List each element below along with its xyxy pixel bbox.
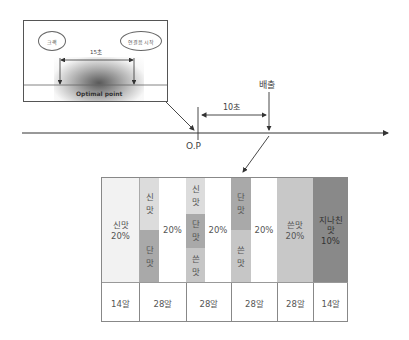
strip-sour: 신 맛 bbox=[139, 178, 159, 230]
timeline-interval-label: 10초 bbox=[223, 101, 240, 112]
count-cell: 28알 bbox=[139, 283, 186, 322]
count-cell: 14알 bbox=[313, 283, 348, 322]
strip-bitter: 쓴 맛 bbox=[186, 248, 205, 283]
col3-percent: 20% bbox=[205, 178, 231, 283]
col-excess-main: 지나친 맛 10% bbox=[313, 178, 348, 283]
count-cell: 14알 bbox=[102, 283, 139, 322]
count-cell: 28알 bbox=[186, 283, 231, 322]
col-sour-main: 신맛 20% bbox=[102, 178, 139, 283]
count-cell: 28알 bbox=[231, 283, 277, 322]
strip-sweet: 단 맛 bbox=[231, 178, 251, 230]
release-label: 배출 bbox=[259, 78, 275, 91]
count-cell: 28알 bbox=[277, 283, 313, 322]
col2-percent: 20% bbox=[159, 178, 186, 283]
strip-bitter: 쓴 맛 bbox=[231, 230, 251, 283]
col4-percent: 20% bbox=[251, 178, 277, 283]
taste-distribution-table: 신맛 20% 신 맛 단 맛 20% 신 맛 단 맛 쓴 맛 20% 단 맛 쓴… bbox=[101, 177, 348, 322]
op-label: O.P bbox=[186, 141, 201, 151]
strip-sweet: 단 맛 bbox=[139, 230, 159, 283]
col-bitter-main: 쓴맛 20% bbox=[277, 178, 313, 283]
strip-sweet: 단 맛 bbox=[186, 214, 205, 248]
strip-sour: 신 맛 bbox=[186, 178, 205, 214]
